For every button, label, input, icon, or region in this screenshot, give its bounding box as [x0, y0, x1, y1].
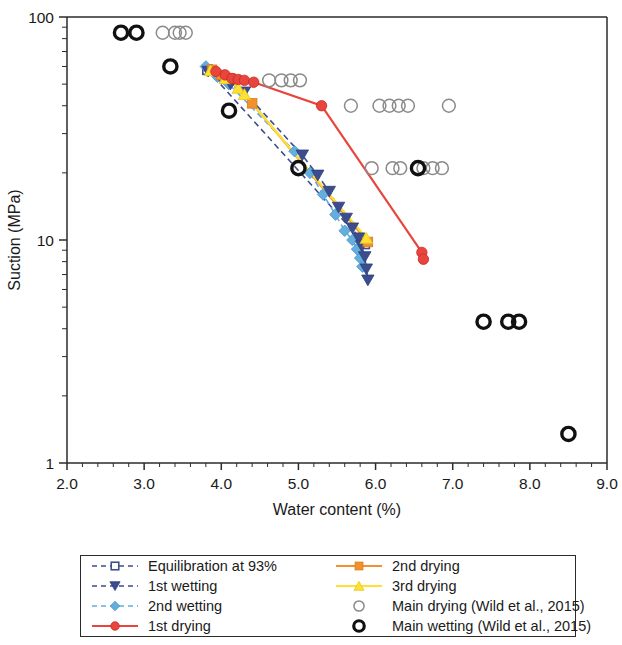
legend-marker-diamond: [89, 597, 141, 615]
legend-marker-glyph: [111, 562, 119, 570]
legend-label: 3rd drying: [392, 578, 456, 594]
legend-item-2nd-drying[interactable]: 2nd drying: [329, 556, 577, 576]
legend-label: 1st drying: [148, 618, 211, 634]
chart-legend: Equilibration at 93%2nd drying1st wettin…: [80, 555, 576, 637]
data-point-marker: [562, 427, 575, 440]
data-point-marker: [442, 99, 455, 112]
series-line-1st-wetting: [208, 71, 368, 280]
legend-label: Main drying (Wild et al., 2015): [392, 598, 585, 614]
plot-area: 2.03.04.05.06.07.08.09.0110100Water cont…: [0, 0, 622, 520]
x-tick-label: 8.0: [519, 475, 541, 492]
legend-label: 2nd drying: [392, 558, 460, 574]
legend-marker-open-circle-thick: [333, 617, 385, 635]
legend-marker-glyph: [355, 562, 363, 570]
legend-item-equilibration-at-93[interactable]: Equilibration at 93%: [81, 556, 329, 576]
series-line-equilibration-at-93-: [207, 70, 364, 244]
data-point-marker: [344, 99, 357, 112]
legend-marker-square: [333, 557, 385, 575]
y-tick-label: 10: [37, 232, 55, 249]
legend-marker-glyph: [111, 622, 120, 631]
data-point-marker: [239, 75, 249, 85]
data-point-marker: [164, 60, 177, 73]
x-tick-label: 7.0: [442, 475, 464, 492]
data-point-marker: [211, 66, 221, 76]
legend-label: 1st wetting: [148, 578, 217, 594]
x-tick-label: 9.0: [596, 475, 618, 492]
legend-label: Main wetting (Wild et al., 2015): [392, 618, 591, 634]
data-point-marker: [402, 99, 415, 112]
data-point-marker: [365, 162, 378, 175]
data-point-marker: [248, 77, 258, 87]
data-point-marker: [418, 254, 428, 264]
legend-marker-open-circle-thin: [333, 597, 385, 615]
legend-key: [333, 597, 385, 615]
y-tick-label: 100: [28, 9, 54, 26]
legend-key: [89, 597, 141, 615]
data-point-marker: [436, 162, 449, 175]
legend-marker-triangle-down: [89, 577, 141, 595]
figure-root: 2.03.04.05.06.07.08.09.0110100Water cont…: [0, 0, 622, 645]
x-tick-label: 5.0: [288, 475, 310, 492]
y-tick-label: 1: [45, 455, 54, 472]
legend-key: [89, 617, 141, 635]
legend-marker-glyph: [354, 621, 364, 631]
x-tick-label: 3.0: [133, 475, 155, 492]
data-point-marker: [222, 104, 235, 117]
data-point-marker: [362, 275, 374, 286]
legend-item-1st-wetting[interactable]: 1st wetting: [81, 576, 329, 596]
x-tick-label: 4.0: [211, 475, 233, 492]
x-tick-label: 2.0: [56, 475, 78, 492]
series-line-2nd-wetting: [206, 66, 363, 266]
data-point-marker: [156, 26, 169, 39]
data-point-marker: [316, 101, 326, 111]
data-point-marker: [477, 315, 490, 328]
legend-label: 2nd wetting: [148, 598, 222, 614]
legend-marker-circle: [89, 617, 141, 635]
chart-canvas: 2.03.04.05.06.07.08.09.0110100Water cont…: [0, 0, 622, 520]
legend-item-main-wetting-wild-et-al-2015[interactable]: Main wetting (Wild et al., 2015): [329, 616, 577, 636]
legend-key: [333, 557, 385, 575]
data-point-marker: [386, 162, 399, 175]
legend-marker-glyph: [354, 601, 364, 611]
data-point-marker: [130, 26, 143, 39]
data-point-marker: [294, 74, 307, 87]
legend-key: [89, 557, 141, 575]
legend-item-3rd-drying[interactable]: 3rd drying: [329, 576, 577, 596]
data-point-marker: [114, 26, 127, 39]
data-point-marker: [394, 162, 407, 175]
legend-item-1st-drying[interactable]: 1st drying: [81, 616, 329, 636]
legend-key: [89, 577, 141, 595]
x-tick-label: 6.0: [365, 475, 387, 492]
y-axis-title: Suction (MPa): [6, 189, 23, 290]
legend-marker-open-square: [89, 557, 141, 575]
legend-item-2nd-wetting[interactable]: 2nd wetting: [81, 596, 329, 616]
legend-key: [333, 617, 385, 635]
legend-key: [333, 577, 385, 595]
data-point-marker: [292, 162, 305, 175]
data-point-marker: [247, 99, 257, 109]
legend-label: Equilibration at 93%: [148, 558, 277, 574]
legend-marker-glyph: [110, 601, 120, 611]
x-axis-title: Water content (%): [273, 501, 401, 518]
legend-item-main-drying-wild-et-al-2015[interactable]: Main drying (Wild et al., 2015): [329, 596, 577, 616]
legend-marker-triangle-up: [333, 577, 385, 595]
data-point-marker: [263, 74, 276, 87]
